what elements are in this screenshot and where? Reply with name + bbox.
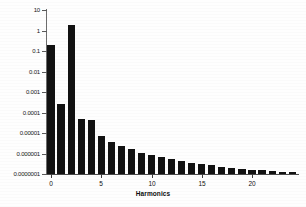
x-axis-line <box>46 174 299 175</box>
x-axis-tick-label: 10 <box>142 180 162 187</box>
x-axis-tick-label: 0 <box>41 180 61 187</box>
bar <box>279 172 286 174</box>
bar <box>138 153 145 174</box>
bar <box>57 104 64 174</box>
bar <box>158 157 165 174</box>
bar <box>178 161 185 174</box>
bar-series <box>0 0 306 174</box>
x-axis-tick <box>202 174 203 178</box>
bar <box>148 155 155 174</box>
bar <box>108 142 115 174</box>
bar <box>238 169 245 174</box>
bar <box>218 167 225 174</box>
bar <box>47 45 54 174</box>
x-axis-tick <box>101 174 102 178</box>
x-axis-tick <box>51 174 52 178</box>
x-axis-tick-label: 20 <box>242 180 262 187</box>
bar <box>208 165 215 174</box>
bar <box>258 170 265 174</box>
bar <box>269 171 276 174</box>
bar <box>98 136 105 174</box>
bar <box>128 149 135 174</box>
x-axis-title: Harmonics <box>0 190 306 197</box>
x-axis-tick <box>152 174 153 178</box>
chart-figure: 1010.10.010.0010.00010.000010.0000010.00… <box>0 0 306 207</box>
x-axis-tick-label: 15 <box>192 180 212 187</box>
bar <box>198 164 205 174</box>
x-axis-tick-label: 5 <box>91 180 111 187</box>
x-axis-tick <box>252 174 253 178</box>
bar <box>228 168 235 174</box>
bar <box>188 163 195 174</box>
bar <box>118 146 125 174</box>
bar <box>289 172 296 174</box>
bar <box>78 119 85 174</box>
y-axis-tick <box>42 174 47 175</box>
bar <box>88 120 95 174</box>
bar <box>68 25 75 174</box>
bar <box>248 170 255 174</box>
bar <box>168 159 175 174</box>
